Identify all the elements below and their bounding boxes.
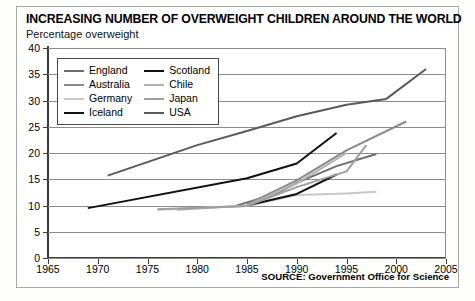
x-axis-tick-mark [347,259,348,264]
legend-swatch-icon [64,98,84,100]
y-axis-tick-label: 15 [28,173,40,185]
x-axis-tick-label: 1970 [86,263,109,275]
y-axis-tick-label: 20 [28,147,40,159]
legend-swatch-icon [64,84,84,86]
x-axis-tick-mark [446,259,447,264]
legend-swatch-icon [144,84,164,86]
legend-item-chile[interactable]: Chile [144,78,210,91]
legend-swatch-icon [64,70,84,72]
y-axis-tick-label: 10 [28,200,40,212]
x-axis-tick-label: 1975 [136,263,159,275]
x-axis-tick-label: 1985 [235,263,258,275]
x-axis-tick-mark [197,259,198,264]
legend-label: Australia [89,78,130,91]
x-axis-tick-label: 1965 [36,263,59,275]
y-axis-tick-mark [43,153,48,154]
x-axis-tick-mark [98,259,99,264]
x-axis-tick-label: 1980 [186,263,209,275]
y-axis-tick-mark [43,206,48,207]
x-axis-tick-mark [247,259,248,264]
legend-item-germany[interactable]: Germany [64,92,132,105]
y-axis-tick-mark [43,232,48,233]
legend-label: USA [169,106,191,119]
x-axis-tick-mark [297,259,298,264]
chart-legend: EnglandScotlandAustraliaChileGermanyJapa… [57,58,219,125]
chart-figure: INCREASING NUMBER OF OVERWEIGHT CHILDREN… [0,0,475,301]
series-line-england [237,154,376,205]
x-axis-tick-mark [396,259,397,264]
y-axis-tick-mark [43,101,48,102]
y-axis-tick-mark [43,48,48,49]
legend-item-scotland[interactable]: Scotland [144,64,210,77]
legend-swatch-icon [144,98,164,100]
legend-item-japan[interactable]: Japan [144,92,210,105]
y-axis-tick-label: 5 [34,226,40,238]
legend-item-australia[interactable]: Australia [64,78,132,91]
series-line-japan [157,145,366,209]
y-axis-tick-label: 25 [28,121,40,133]
legend-label: England [89,64,128,77]
y-axis-tick-label: 30 [28,95,40,107]
legend-item-iceland[interactable]: Iceland [64,106,132,119]
legend-label: Scotland [169,64,210,77]
legend-item-england[interactable]: England [64,64,132,77]
series-line-australia [247,122,406,205]
y-axis-tick-mark [43,74,48,75]
legend-item-usa[interactable]: USA [144,106,210,119]
legend-swatch-icon [144,112,164,114]
legend-swatch-icon [64,112,84,114]
x-axis-tick-mark [48,259,49,264]
legend-label: Chile [169,78,193,91]
chart-title: INCREASING NUMBER OF OVERWEIGHT CHILDREN… [26,12,462,26]
y-axis-tick-mark [43,127,48,128]
y-axis-tick-mark [43,179,48,180]
y-axis-tick-label: 35 [28,68,40,80]
legend-label: Japan [169,92,198,105]
legend-swatch-icon [144,70,164,72]
y-axis-tick-label: 40 [28,42,40,54]
chart-subtitle: Percentage overweight [26,28,139,40]
legend-label: Iceland [89,106,123,119]
chart-source: SOURCE: Government Office for Science [261,271,449,282]
x-axis-tick-mark [148,259,149,264]
legend-label: Germany [89,92,132,105]
